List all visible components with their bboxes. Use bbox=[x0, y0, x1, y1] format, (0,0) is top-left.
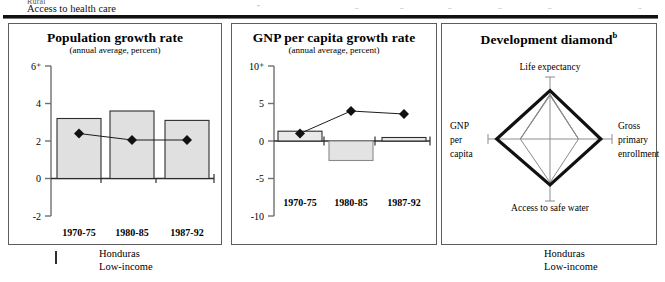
diamond-axis-label-left-3: capita bbox=[450, 149, 473, 159]
diamond-axis-label-right-3: enrollment bbox=[618, 149, 660, 159]
panel-population-growth-rate: Population growth rate (annual average, … bbox=[8, 23, 222, 245]
bar-gnp-1980-85 bbox=[329, 141, 373, 161]
xtick-gnp-2: 1987-92 bbox=[387, 197, 420, 208]
xtick-gnp-0: 1970-75 bbox=[283, 197, 316, 208]
plot-area-population: 6⁺ 4 2 0 -2 1970-75 bbox=[9, 56, 223, 241]
chart-title-diamond-text: Development diamond bbox=[481, 32, 613, 47]
header-tick-2: .. bbox=[400, 3, 404, 11]
header-tick-3: .. bbox=[448, 3, 452, 11]
ytick-gnp-5: 5 bbox=[259, 98, 264, 109]
header-rule-secondary bbox=[3, 18, 658, 19]
panel-development-diamond: Development diamondb Life expectancy Gro… bbox=[441, 23, 657, 245]
header-tick-6: .. bbox=[638, 3, 642, 11]
diamond-axis-label-top: Life expectancy bbox=[520, 62, 581, 72]
ytick-pop-0: 0 bbox=[36, 173, 41, 184]
marker-gnp-lowincome-1987-92 bbox=[399, 109, 409, 119]
chart-title-population: Population growth rate bbox=[9, 30, 221, 46]
header-row-label: Access to health care bbox=[27, 3, 116, 14]
ytick-pop-2: 2 bbox=[36, 136, 41, 147]
diamond-axis-label-left-2: per bbox=[450, 135, 463, 145]
ytick-pop-neg2: -2 bbox=[33, 211, 41, 222]
marker-gnp-lowincome-1980-85 bbox=[346, 106, 356, 116]
chart-subtitle-population: (annual average, percent) bbox=[9, 45, 221, 55]
plot-area-diamond: Life expectancy Gross primary enrollment… bbox=[442, 48, 658, 238]
diamond-series-lowincome-upper bbox=[520, 94, 578, 139]
ytick-gnp-10: 10⁺ bbox=[249, 61, 264, 72]
xtick-gnp-1: 1980-85 bbox=[334, 197, 367, 208]
xtick-pop-2: 1987-92 bbox=[170, 227, 203, 238]
plot-area-gnp: 10⁺ 5 0 -5 -10 1970-75 bbox=[232, 56, 438, 241]
diamond-axis-label-left-1: GNP bbox=[450, 121, 469, 131]
chart-title-gnp: GNP per capita growth rate bbox=[232, 30, 436, 46]
bar-population-1987-92 bbox=[165, 120, 209, 178]
header-tick-1: .. bbox=[355, 3, 359, 11]
bar-gnp-1987-92 bbox=[382, 138, 426, 142]
chart-title-diamond: Development diamondb bbox=[442, 30, 656, 48]
header-tick-0: " bbox=[257, 3, 260, 11]
legend-label-lowincome-pop: Low-income bbox=[99, 261, 153, 272]
ytick-gnp-0: 0 bbox=[259, 136, 264, 147]
chart-subtitle-gnp: (annual average, percent) bbox=[232, 45, 436, 55]
diamond-series-honduras bbox=[497, 91, 601, 185]
ytick-gnp-neg10: -10 bbox=[251, 211, 264, 222]
diamond-axis-label-right-2: primary bbox=[618, 135, 648, 145]
legend-swatch-box-icon bbox=[55, 252, 57, 263]
figure-page: Rural Access to health care " .. .. .. .… bbox=[0, 0, 665, 282]
header-tick-5: .. bbox=[548, 3, 552, 11]
bar-population-1970-75 bbox=[57, 119, 101, 179]
xtick-pop-0: 1970-75 bbox=[62, 227, 95, 238]
panel-gnp-per-capita-growth-rate: GNP per capita growth rate (annual avera… bbox=[231, 23, 437, 245]
xtick-pop-1: 1980-85 bbox=[115, 227, 148, 238]
legend-label-lowincome-diamond: Low-income bbox=[544, 261, 598, 272]
legend-label-honduras-diamond: Honduras bbox=[544, 248, 585, 259]
ytick-pop-6: 6⁺ bbox=[31, 61, 41, 72]
header-tick-4: .. bbox=[498, 3, 502, 11]
ytick-pop-4: 4 bbox=[36, 98, 41, 109]
chart-title-diamond-footnote: b bbox=[613, 30, 618, 40]
diamond-axis-label-bottom: Access to safe water bbox=[511, 203, 590, 213]
legend-label-honduras-pop: Honduras bbox=[99, 248, 140, 259]
ytick-gnp-neg5: -5 bbox=[256, 173, 264, 184]
diamond-axis-label-right-1: Gross bbox=[618, 121, 640, 131]
